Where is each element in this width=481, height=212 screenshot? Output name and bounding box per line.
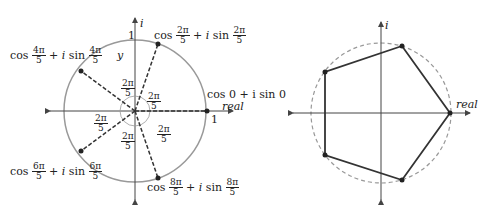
imag-axis-label: i: [140, 18, 144, 29]
imag-axis-label-right: i: [385, 20, 389, 31]
real-axis-label: real: [222, 101, 244, 112]
angle-label: 2π5: [157, 125, 171, 144]
point-2pi5-label: cos 2π5 + i sin 2π5: [154, 26, 246, 45]
unit-top-label: 1: [128, 30, 135, 41]
y-label: y: [117, 50, 123, 61]
right-diagram: [293, 22, 470, 200]
point-8pi5-label: cos 8π5 + i sin 8π5: [147, 178, 239, 197]
angle-label: 2π5: [147, 92, 161, 111]
angle-label: 2π5: [121, 79, 135, 98]
unit-right-label: 1: [211, 114, 218, 125]
point-6pi5-label: cos 6π5 + i sin 6π5: [10, 162, 102, 181]
point-4pi5-label: cos 4π5 + i sin 4π5: [10, 46, 102, 65]
angle-label: 2π5: [94, 114, 108, 133]
angle-label: 2π5: [121, 132, 135, 151]
real-axis-label-right: real: [456, 99, 478, 110]
point-zero-label: cos 0 + i sin 0: [207, 89, 286, 100]
